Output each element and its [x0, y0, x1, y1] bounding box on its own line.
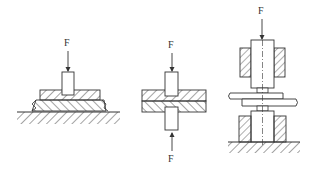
base	[17, 112, 120, 124]
force-label: F	[258, 5, 264, 16]
figure-single-sided: F	[17, 37, 120, 124]
lower-holder-left	[239, 116, 251, 142]
bottom-punch	[165, 107, 178, 130]
lower-plate	[32, 100, 108, 111]
lower-electrode	[251, 111, 274, 142]
arrow-head-top-icon	[170, 67, 175, 72]
arrow-head-bottom-icon	[170, 132, 175, 137]
upper-holder-right	[274, 48, 285, 77]
punch	[62, 72, 74, 95]
diagram-svg: F F F	[0, 0, 314, 169]
ground	[228, 142, 300, 153]
force-label-top: F	[168, 39, 174, 50]
force-label: F	[64, 37, 70, 48]
upper-sheet	[229, 93, 284, 99]
arrow-head-icon	[66, 67, 71, 72]
lower-holder-right	[274, 116, 286, 142]
upper-holder-left	[240, 48, 251, 77]
top-punch	[165, 72, 178, 96]
figure-double-sided: F F	[142, 39, 206, 164]
arrow-head-icon	[260, 35, 265, 40]
diagram-canvas: F F F	[0, 0, 314, 169]
figure-electrode-press: F	[228, 5, 300, 153]
lower-sheet	[242, 99, 298, 106]
force-label-bottom: F	[168, 153, 174, 164]
